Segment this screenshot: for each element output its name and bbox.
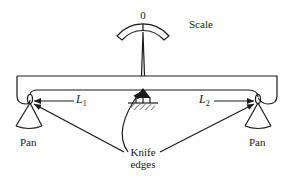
beam xyxy=(17,76,277,104)
scale-zero-label: 0 xyxy=(138,9,148,21)
knife-arrow-center xyxy=(122,92,140,152)
knife-arrow-right xyxy=(160,104,254,152)
arm-length-l1: L1 xyxy=(76,93,87,110)
arm-length-l2: L2 xyxy=(199,93,210,110)
knife-edges-label: Knife edges xyxy=(125,146,161,170)
pointer xyxy=(142,32,145,76)
right-pan-assembly xyxy=(245,95,271,129)
left-pan-label: Pan xyxy=(20,136,37,148)
right-pan-label: Pan xyxy=(249,136,266,148)
fulcrum xyxy=(128,89,158,110)
scale-label: Scale xyxy=(189,18,213,30)
left-pan-assembly xyxy=(16,95,42,129)
knife-arrow-left xyxy=(34,104,124,152)
